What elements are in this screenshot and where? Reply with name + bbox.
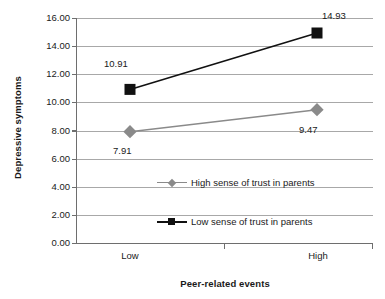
legend-label-high-trust: High sense of trust in parents bbox=[191, 177, 315, 188]
chart-container: Depressive symptoms Peer-related events … bbox=[0, 0, 385, 299]
legend-label-low-trust: Low sense of trust in parents bbox=[191, 216, 312, 227]
legend-item-high-trust: High sense of trust in parents bbox=[157, 177, 315, 188]
data-point-marker bbox=[123, 125, 136, 138]
series-high-sense-of-trust-in-parents bbox=[123, 103, 323, 138]
diamond-marker-icon bbox=[168, 179, 176, 187]
legend-item-low-trust: Low sense of trust in parents bbox=[157, 216, 312, 227]
data-point-marker bbox=[125, 84, 136, 95]
data-point-marker bbox=[310, 103, 323, 116]
series-line-high-trust bbox=[130, 110, 317, 132]
data-label-high-trust-high: 9.47 bbox=[299, 124, 318, 135]
series-low-sense-of-trust-in-parents bbox=[125, 28, 323, 95]
data-label-low-trust-low: 10.91 bbox=[104, 58, 128, 69]
series-line-low-trust bbox=[130, 33, 317, 89]
square-marker-icon bbox=[168, 218, 175, 225]
legend-swatch-high-trust bbox=[157, 177, 187, 188]
data-label-low-trust-high: 14.93 bbox=[322, 10, 346, 21]
plot-area bbox=[0, 0, 385, 299]
data-point-marker bbox=[312, 28, 323, 39]
legend-swatch-low-trust bbox=[157, 216, 187, 227]
y-axis-ticks bbox=[72, 19, 76, 244]
data-label-high-trust-low: 7.91 bbox=[113, 145, 132, 156]
